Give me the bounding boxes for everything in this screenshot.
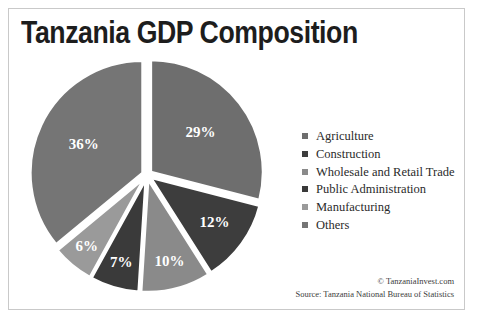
source-text: Source: Tanzania National Bureau of Stat… (295, 288, 454, 300)
pie-chart-svg: 29%12%10%7%6%36% (13, 61, 281, 297)
legend-swatch-icon (302, 151, 308, 157)
legend-swatch-icon (302, 204, 308, 210)
legend-item-label: Agriculture (316, 129, 374, 144)
pie-slice-label: 12% (199, 214, 229, 230)
legend-swatch-icon (302, 133, 308, 139)
copyright-text: © TanzaniaInvest.com (295, 275, 454, 287)
chart-card: Tanzania GDP Composition 29%12%10%7%6%36… (8, 8, 465, 310)
legend-item-label: Construction (316, 147, 381, 162)
legend-item-label: Wholesale and Retail Trade (316, 165, 455, 180)
legend-item: Others (302, 218, 472, 233)
legend-item-label: Public Administration (316, 182, 426, 197)
pie-slice-label: 29% (186, 124, 216, 140)
legend-item: Public Administration (302, 182, 472, 197)
legend-item: Manufacturing (302, 200, 472, 215)
page-title: Tanzania GDP Composition (21, 15, 358, 51)
legend-swatch-icon (302, 222, 308, 228)
legend-item: Agriculture (302, 129, 472, 144)
legend-swatch-icon (302, 169, 308, 175)
pie-chart: 29%12%10%7%6%36% (13, 61, 281, 297)
pie-slice-label: 7% (110, 254, 133, 270)
pie-slice-label: 36% (69, 136, 99, 152)
legend-item: Wholesale and Retail Trade (302, 165, 472, 180)
pie-slice-group (30, 61, 262, 292)
pie-slice-label: 6% (75, 238, 98, 254)
legend-item: Construction (302, 147, 472, 162)
legend-item-label: Others (316, 218, 349, 233)
legend-swatch-icon (302, 186, 308, 192)
attribution: © TanzaniaInvest.com Source: Tanzania Na… (295, 275, 454, 300)
legend-item-label: Manufacturing (316, 200, 390, 215)
legend: AgricultureConstructionWholesale and Ret… (302, 129, 472, 236)
pie-slice-label: 10% (154, 253, 184, 269)
